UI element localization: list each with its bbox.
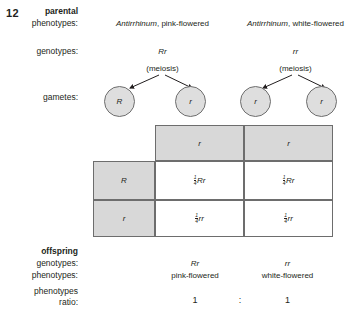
parent-left-phenotype-text: , pink-flowered: [157, 19, 209, 28]
punnett-cell-content: 14rr: [284, 213, 293, 224]
punnett-row-header-1: r: [93, 200, 155, 237]
offspring-genotype-0: Rr: [150, 258, 240, 269]
parent-right-phenotype-text: , white-flowered: [288, 19, 344, 28]
offspring-phenotype-0: pink-flowered: [150, 270, 240, 281]
offspring-ratio-0: 1: [150, 295, 240, 305]
meiosis-label-left: (meiosis): [95, 63, 230, 74]
fraction: 14: [194, 175, 197, 186]
label-offspring: offspring: [0, 246, 78, 257]
gamete-label: r: [189, 97, 192, 106]
parent-right-phenotype: Antirrhinum, white-flowered: [228, 18, 350, 29]
arrow-left-parent-to-gamete-R: [130, 75, 159, 88]
label-offspring-genotypes: genotypes:: [0, 258, 78, 269]
gamete-label: R: [117, 97, 123, 106]
punnett-column-header-1: r: [244, 125, 333, 161]
punnett-cell-content: 14Rr: [194, 175, 206, 186]
fraction: 14: [284, 213, 287, 224]
parent-left-phenotype: Antirrhinum, pink-flowered: [95, 18, 230, 29]
offspring-phenotype-1: white-flowered: [240, 270, 335, 281]
punnett-cell-0-1: 14Rr: [244, 161, 333, 200]
punnett-cell-1-1: 14rr: [244, 200, 333, 237]
punnett-cell-genotype: Rr: [286, 176, 294, 185]
fraction: 14: [283, 175, 286, 186]
label-parental-genotypes: genotypes:: [0, 46, 78, 57]
parent-right-genotype: rr: [228, 46, 350, 57]
parent-right-species: Antirrhinum: [247, 19, 288, 28]
genetics-cross-figure: 12 parental phenotypes: genotypes: gamet…: [0, 0, 350, 318]
punnett-cell-genotype: rr: [198, 214, 203, 223]
fraction: 14: [195, 213, 198, 224]
gamete-circle-right-r1: r: [240, 86, 271, 117]
label-parental: parental: [0, 6, 78, 17]
gamete-circle-left-R: R: [104, 86, 135, 117]
label-phenotypes-ratio-line1: phenotypes: [0, 286, 78, 297]
punnett-cell-content: 14Rr: [283, 175, 295, 186]
gamete-circle-left-r: r: [175, 86, 206, 117]
label-phenotypes-ratio-line2: ratio:: [0, 297, 78, 308]
label-offspring-phenotypes: phenotypes:: [0, 270, 78, 281]
label-gametes: gametes:: [0, 92, 78, 103]
parent-left-genotype: Rr: [95, 46, 230, 57]
meiosis-label-right: (meiosis): [228, 63, 350, 74]
offspring-genotype-1: rr: [240, 258, 335, 269]
label-parental-phenotypes: phenotypes:: [0, 18, 78, 29]
parent-left-species: Antirrhinum: [116, 19, 157, 28]
punnett-cell-genotype: Rr: [197, 176, 205, 185]
punnett-column-header-0: r: [155, 125, 244, 161]
arrow-right-parent-to-gamete-r1: [263, 75, 292, 88]
offspring-ratio-1: 1: [240, 295, 335, 305]
punnett-cell-0-0: 14Rr: [155, 161, 244, 200]
punnett-row-header-0: R: [93, 161, 155, 200]
punnett-cell-content: 14rr: [195, 213, 204, 224]
gamete-label: r: [320, 97, 323, 106]
gamete-circle-right-r2: r: [306, 86, 337, 117]
gamete-label: r: [254, 97, 257, 106]
punnett-square: r r R r 14Rr 14Rr 14rr 14rr: [93, 125, 333, 237]
punnett-cell-genotype: rr: [287, 214, 292, 223]
punnett-cell-1-0: 14rr: [155, 200, 244, 237]
